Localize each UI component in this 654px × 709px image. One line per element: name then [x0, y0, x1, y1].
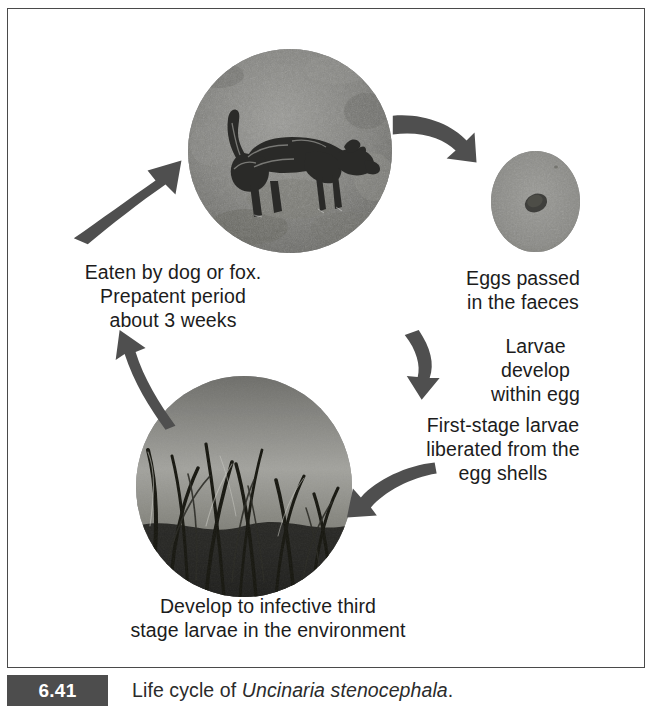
figure-number-badge: 6.41 [7, 675, 108, 706]
label-larvae-develop-within-egg: Larvae develop within egg [433, 335, 638, 406]
photo-grass-pasture [136, 376, 352, 597]
figure-caption-text: Life cycle of Uncinaria stenocephala. [132, 679, 453, 702]
label-develop-to-infective-third-stage: Develop to infective third stage larvae … [43, 595, 493, 643]
label-eggs-passed-in-faeces: Eggs passed in the faeces [408, 267, 638, 315]
arrow-dog-to-eggs [393, 115, 477, 162]
caption-prefix: Life cycle of [132, 679, 242, 701]
egg-photo-graphic [491, 151, 580, 252]
photo-dog-walking-on-ground [188, 49, 392, 253]
arrow-text-to-dog [74, 161, 182, 245]
life-cycle-diagram: Eaten by dog or fox. Prepatent period ab… [8, 9, 644, 667]
photo-hookworm-egg-microscopy [491, 151, 580, 252]
dog-photo-graphic [188, 49, 392, 253]
caption-suffix: . [448, 679, 454, 701]
figure-root: Eaten by dog or fox. Prepatent period ab… [0, 0, 654, 709]
grass-photo-graphic [136, 376, 352, 597]
caption-species-name: Uncinaria stenocephala [242, 679, 448, 701]
figure-caption: 6.41 Life cycle of Uncinaria stenocephal… [7, 674, 645, 707]
figure-frame: Eaten by dog or fox. Prepatent period ab… [7, 8, 645, 668]
label-eaten-by-dog-or-fox: Eaten by dog or fox. Prepatent period ab… [18, 261, 328, 332]
label-first-stage-larvae-liberated: First-stage larvae liberated from the eg… [363, 414, 643, 485]
